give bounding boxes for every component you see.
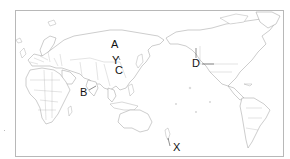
label-d: D bbox=[192, 58, 200, 69]
label-c: C bbox=[115, 65, 123, 76]
pacific-island bbox=[195, 111, 196, 112]
svalbard bbox=[48, 20, 56, 26]
iceland bbox=[16, 38, 22, 43]
new-zealand bbox=[165, 128, 170, 140]
cuba bbox=[244, 84, 252, 86]
stray-mark bbox=[4, 130, 5, 131]
pacific-island bbox=[209, 101, 210, 102]
hawaii bbox=[189, 87, 191, 89]
label-x: X bbox=[173, 142, 180, 153]
label-a: A bbox=[111, 39, 118, 50]
madagascar bbox=[68, 106, 72, 116]
indonesia bbox=[110, 102, 138, 110]
world-map bbox=[0, 0, 290, 159]
pacific-island bbox=[175, 103, 176, 104]
leader-x bbox=[168, 138, 170, 146]
central-america bbox=[228, 86, 244, 100]
north-america bbox=[166, 18, 276, 86]
indochina bbox=[108, 88, 116, 102]
south-america bbox=[240, 98, 270, 148]
label-b: B bbox=[80, 87, 87, 98]
philippines bbox=[128, 84, 134, 96]
great-britain bbox=[20, 48, 26, 58]
australia bbox=[118, 110, 152, 132]
